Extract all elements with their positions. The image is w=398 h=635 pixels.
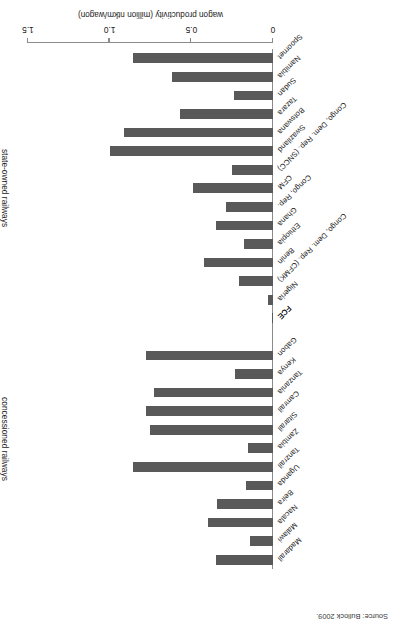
bar [133,462,273,472]
source-note: Source: Bullock 2009. [316,612,388,621]
chart-figure: Source: Bullock 2009. SpoornetNamibiaSud… [0,0,398,635]
bar-row: Uganda [28,481,273,491]
bar [110,146,273,156]
bar-row: Nigeria [28,295,273,305]
bar-row: Benin [28,258,273,268]
bar [235,369,273,379]
value-axis-tick [190,38,191,43]
bar-row: Malawi [28,536,273,546]
value-axis-tick-label: 1.5 [22,25,34,35]
bar [226,202,273,212]
bar [248,443,273,453]
bar [216,221,273,231]
bar [180,109,273,119]
bar-row: Congo, Dem. Rep. (CFMK) [28,276,273,286]
bar-row: CFM [28,183,273,193]
group-label: state-owned railways [0,149,10,227]
bar-row: Swaziland [28,146,273,156]
bar-row: Namibia [28,72,273,82]
bar-row: Gabon [28,351,273,361]
bar [239,276,273,286]
bar-row: Madarail [28,555,273,565]
bar [250,536,273,546]
bar-row: Congo, Rep. [28,202,273,212]
bar-row: Ghana [28,221,273,231]
value-axis-tick [272,38,273,43]
bar [217,499,273,509]
bar-row: Tazara [28,109,273,119]
bar-row: Congo, Dem. Rep. (SNCC) [28,165,273,175]
bar-row: Tanzania [28,388,273,398]
bar-row: Camrail [28,406,273,416]
category-label: Nigeria [276,279,300,303]
category-label: FCE [276,304,293,321]
value-axis-title: wagon productivity (million ntkm/wagon) [28,10,273,19]
value-axis-tick-label: 1.0 [104,25,116,35]
group-label: concessioned railways [0,397,10,481]
bar-row: Nacala [28,518,273,528]
bar-row: Beira [28,499,273,509]
bar [232,165,273,175]
bar-row: FCE [28,313,273,323]
bar [133,53,273,63]
bar [193,183,273,193]
bar [146,351,273,361]
bar [146,406,273,416]
bar [151,425,274,435]
bar [268,295,273,305]
value-axis-tick-label: 0 [271,25,276,35]
bar [244,239,273,249]
value-axis-tick [108,38,109,43]
bar-row: Kenya [28,369,273,379]
category-label: Nacala [276,502,300,526]
bar-row: Ethiopia [28,239,273,249]
plot-area: SpoornetNamibiaSudanTazaraBotswanaSwazil… [28,49,273,569]
bar-row: Zambia [28,443,273,453]
bar [234,91,273,101]
bar [246,481,273,491]
bar [216,555,273,565]
bar [204,258,273,268]
value-axis-tick-label: 0.5 [186,25,198,35]
bar [172,72,273,82]
bar-row: Botswana [28,128,273,138]
value-axis-tick [27,38,28,43]
bar-row: Sudan [28,91,273,101]
bar [154,388,273,398]
category-label: Sudan [276,76,298,98]
bar [124,128,273,138]
rotated-page-canvas: Source: Bullock 2009. SpoornetNamibiaSud… [0,0,398,635]
bar-row: Tanzrail [28,462,273,472]
bar [208,518,273,528]
bar-row: Sitarail [28,425,273,435]
category-label: Gabon [276,336,299,359]
bar-row: Spoornet [28,53,273,63]
value-axis-line [28,42,273,43]
